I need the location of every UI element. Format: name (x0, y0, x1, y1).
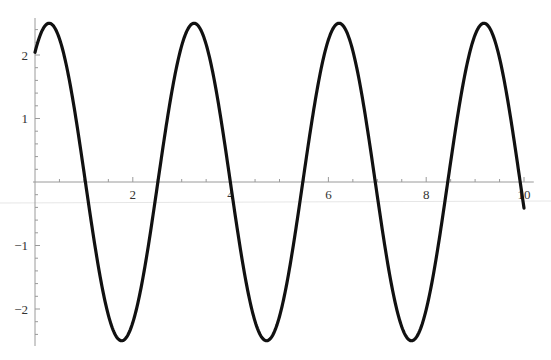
scan-artifact-line (0, 201, 551, 203)
y-tick-label: 2 (22, 48, 29, 63)
x-tick-label: 2 (130, 187, 137, 202)
line-chart: 246810−2−112 (0, 0, 551, 360)
y-tick-label: 1 (22, 111, 29, 126)
x-tick-label: 6 (325, 187, 332, 202)
y-tick-label: −1 (14, 238, 28, 253)
y-tick-label: −2 (14, 302, 28, 317)
x-tick-label: 8 (423, 187, 430, 202)
